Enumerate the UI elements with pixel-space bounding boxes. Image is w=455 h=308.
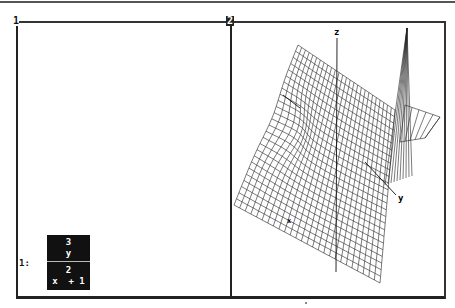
fraction-bar [47,261,90,262]
y-axis-label: y [398,193,404,203]
z-axis-label: z [334,27,339,37]
top-rule [0,1,455,3]
plot-3d-surface[interactable]: z y x [232,23,442,294]
denominator-exponent: 2 [47,265,90,276]
numerator-exponent: 3 [47,237,90,248]
expression-numerator: 3 y [47,237,90,259]
expression-denominator: 2 x + 1 [47,265,90,287]
numerator-base: y [47,248,90,259]
window-1-label[interactable]: 1 [13,16,19,26]
marker-dot [305,302,307,304]
expression-box[interactable]: 3 y 2 x + 1 [47,235,90,290]
z-axis-line [336,38,337,272]
denominator-base: x + 1 [47,276,90,287]
x-axis-label: x [287,217,292,225]
expression-label: 1: [19,258,30,268]
